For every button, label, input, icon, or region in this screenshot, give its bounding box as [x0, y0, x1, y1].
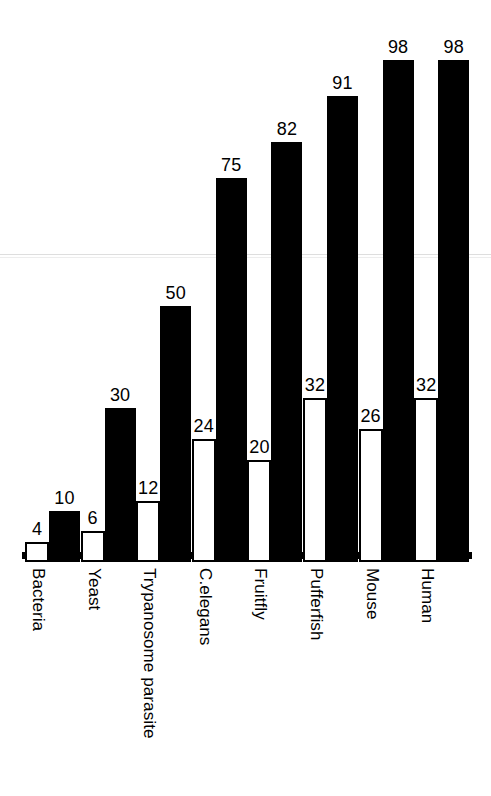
x-axis-labels: BacteriaYeastTrypanosome parasiteC.elega… — [0, 562, 491, 796]
bar-white — [247, 460, 271, 562]
value-label-black: 98 — [434, 38, 473, 56]
value-label-black: 91 — [323, 74, 362, 92]
value-label-black: 98 — [379, 38, 418, 56]
bar-group: 8220 — [247, 10, 303, 562]
value-label-black: 75 — [212, 156, 251, 174]
value-label-black: 10 — [45, 489, 84, 507]
bar-group: 104 — [25, 10, 81, 562]
bar-white — [359, 429, 383, 562]
x-axis-label: Trypanosome parasite — [141, 568, 158, 739]
x-axis-label: Human — [419, 568, 436, 623]
bar-group: 9832 — [414, 10, 470, 562]
x-axis-label: Yeast — [86, 568, 103, 610]
bar-group: 9826 — [359, 10, 415, 562]
bar-white — [25, 542, 49, 562]
bar-black — [216, 178, 247, 562]
bar-black — [383, 60, 414, 562]
bar-group: 306 — [81, 10, 137, 562]
value-label-black: 82 — [267, 120, 306, 138]
bar-white — [414, 398, 438, 562]
value-label-black: 30 — [101, 386, 140, 404]
bar-chart: 104306501275248220913298269832 BacteriaY… — [0, 0, 491, 796]
bar-black — [271, 142, 302, 562]
bar-white — [303, 398, 327, 562]
bar-black — [327, 96, 358, 562]
value-label-black: 50 — [156, 284, 195, 302]
bar-white — [81, 531, 105, 562]
bar-black — [105, 408, 136, 562]
bar-group: 7524 — [192, 10, 248, 562]
plot-area: 104306501275248220913298269832 — [0, 0, 491, 562]
bar-black — [49, 511, 80, 562]
x-axis-label: Fruitfly — [252, 568, 269, 620]
x-axis-label: Mouse — [364, 568, 381, 620]
bar-group: 9132 — [303, 10, 359, 562]
bar-white — [192, 439, 216, 562]
bar-black — [438, 60, 469, 562]
bar-group: 5012 — [136, 10, 192, 562]
bar-black — [160, 306, 191, 562]
bar-white — [136, 501, 160, 562]
x-axis-label: Pufferfish — [308, 568, 325, 641]
x-axis-label: Bacteria — [30, 568, 47, 631]
x-axis-label: C.elegans — [197, 568, 214, 645]
